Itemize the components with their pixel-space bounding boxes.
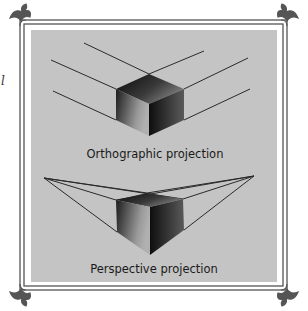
top-left-flourish-icon (10, 4, 30, 26)
bottom-right-flourish-icon (278, 284, 298, 306)
figure-canvas: Orthographic projection Perspective proj… (0, 0, 308, 311)
top-right-flourish-icon (278, 4, 298, 26)
cropped-side-text: l (1, 74, 5, 88)
projection-figure: l (0, 0, 308, 311)
perspective-label: Perspective projection (90, 262, 218, 276)
orthographic-label: Orthographic projection (87, 147, 224, 161)
bottom-left-flourish-icon (10, 284, 30, 306)
